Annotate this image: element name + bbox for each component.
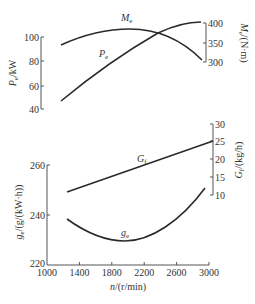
me-tick: 300 [208,57,223,68]
svg-text:Pe/kW: Pe/kW [7,59,20,87]
ge-tick: 240 [30,210,45,221]
pe-tick: 80 [29,56,39,67]
pe-tick: 40 [29,104,39,115]
gf-tick: 20 [215,154,225,165]
x-tick: 3000 [199,267,219,278]
gf-curve [67,141,213,192]
gf-axis-label: Gf/(kg/h) [233,142,246,179]
me-axis: 400 350 300 Me/(N·m) [203,18,250,68]
me-axis-label: Me/(N·m) [237,22,250,62]
x-axis-label: n/(r/min) [110,281,146,293]
pe-tick: 60 [29,81,39,92]
gf-tick: 10 [215,190,225,201]
x-tick: 2600 [167,267,187,278]
x-tick: 1000 [37,267,57,278]
gf-curve-label: Gf [137,153,147,166]
me-curve [61,29,202,60]
x-tick: 2200 [134,267,154,278]
bottom-panel: 260 240 220 ge/(g/(kW·h)) 1000 1400 1800… [13,119,246,293]
svg-text:ge/(g/(kW·h)): ge/(g/(kW·h)) [13,185,26,240]
x-axis: 1000 1400 1800 2200 2600 3000 n/(r/min) [37,262,219,293]
ge-curve-label: ge [121,227,129,240]
gf-tick: 25 [215,136,225,147]
engine-characteristic-chart: 100 80 60 40 Pe/kW 400 350 300 Me/(N·m) … [0,0,255,304]
me-curve-label: Me [120,12,132,25]
x-tick: 1800 [102,267,122,278]
pe-axis-label: Pe/kW [7,59,20,87]
ge-tick: 260 [30,160,45,171]
ge-curve [67,188,205,241]
gf-tick: 15 [215,172,225,183]
x-tick: 1400 [69,267,89,278]
me-tick: 350 [208,38,223,49]
svg-text:Me/(N·m): Me/(N·m) [237,22,250,62]
pe-curve-label: Pe [98,48,108,61]
svg-text:Gf/(kg/h): Gf/(kg/h) [233,142,246,179]
me-tick: 400 [208,18,223,29]
top-panel: 100 80 60 40 Pe/kW 400 350 300 Me/(N·m) … [7,12,250,115]
ge-axis-label: ge/(g/(kW·h)) [13,185,26,240]
pe-curve [61,22,201,101]
pe-tick: 100 [24,32,39,43]
gf-tick: 30 [215,119,225,130]
pe-axis: 100 80 60 40 Pe/kW [7,32,44,115]
gf-axis: 30 25 20 15 10 Gf/(kg/h) [210,119,246,201]
ge-axis: 260 240 220 ge/(g/(kW·h)) [13,160,50,269]
